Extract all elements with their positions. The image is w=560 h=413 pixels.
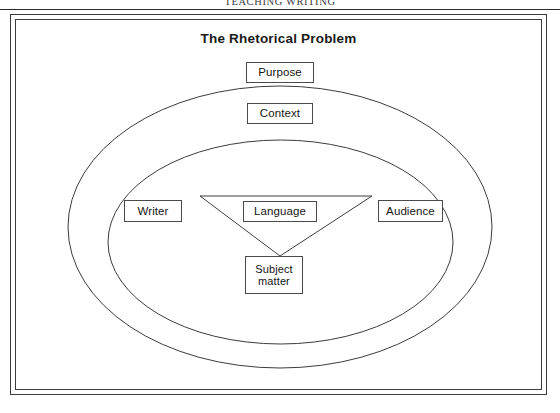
node-box-audience: Audience: [378, 200, 443, 222]
node-label-subject-line2: matter: [258, 275, 290, 287]
node-label-writer: Writer: [137, 205, 168, 218]
node-box-context: Context: [247, 103, 313, 124]
node-box-language: Language: [243, 201, 317, 222]
node-box-writer: Writer: [124, 200, 182, 222]
node-box-purpose: Purpose: [246, 62, 314, 83]
node-label-context: Context: [260, 107, 300, 120]
node-label-subject-line1: Subject: [255, 263, 292, 275]
node-label-audience: Audience: [386, 205, 435, 218]
inner-ellipse: [108, 140, 453, 344]
node-label-purpose: Purpose: [258, 66, 302, 79]
node-box-subject-matter: Subject matter: [245, 256, 303, 294]
outer-ellipse: [68, 86, 492, 368]
node-label-language: Language: [254, 205, 306, 218]
